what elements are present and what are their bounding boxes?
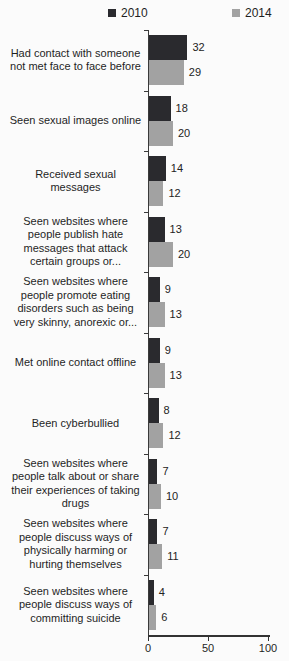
x-axis-tick xyxy=(268,636,269,641)
value-label-2014: 20 xyxy=(178,121,190,146)
value-label-2014: 6 xyxy=(161,605,167,630)
bar-group: 812 xyxy=(148,393,289,454)
bar-2014 xyxy=(149,484,161,509)
y-axis-tick xyxy=(144,575,149,576)
category-label: Received sexual messages xyxy=(0,168,148,195)
bar-2014 xyxy=(149,363,165,388)
category-label: Met online contact offline xyxy=(0,356,148,370)
legend-item-2014: 2014 xyxy=(232,6,272,20)
legend-swatch-2010-icon xyxy=(108,9,116,17)
bar-group: 913 xyxy=(148,272,289,333)
value-label-2010: 13 xyxy=(170,217,182,242)
bar-group: 46 xyxy=(148,575,289,636)
bar-row: Seen websites where people publish hate … xyxy=(0,212,289,273)
bar-2010 xyxy=(149,580,154,605)
bar-2010 xyxy=(149,96,171,121)
category-label: Seen websites where people promote eatin… xyxy=(0,275,148,329)
bar-row: Seen sexual images online1820 xyxy=(0,91,289,152)
legend-item-2010: 2010 xyxy=(108,6,148,20)
bar-2010 xyxy=(149,35,187,60)
bar-2014 xyxy=(149,423,163,448)
y-axis-tick xyxy=(144,514,149,515)
x-axis-tick-label: 0 xyxy=(136,642,160,654)
x-axis: 050100 xyxy=(148,635,289,661)
bar-group: 3229 xyxy=(148,30,289,91)
bar-2014 xyxy=(149,242,173,267)
value-label-2014: 11 xyxy=(167,544,178,569)
value-label-2014: 13 xyxy=(170,363,182,388)
bar-2014 xyxy=(149,60,184,85)
bar-row: Received sexual messages1412 xyxy=(0,151,289,212)
x-axis-tick xyxy=(148,636,149,641)
value-label-2014: 12 xyxy=(168,181,180,206)
value-label-2014: 12 xyxy=(168,423,180,448)
bar-row: Had contact with someone not met face to… xyxy=(0,30,289,91)
category-label: Seen websites where people publish hate … xyxy=(0,215,148,269)
category-label: Seen sexual images online xyxy=(0,114,148,128)
bar-2014 xyxy=(149,605,156,630)
value-label-2010: 7 xyxy=(162,459,168,484)
bar-row: Seen websites where people promote eatin… xyxy=(0,272,289,333)
y-axis-tick xyxy=(144,454,149,455)
value-label-2014: 10 xyxy=(166,484,178,509)
value-label-2014: 20 xyxy=(178,242,190,267)
category-label: Seen websites where people discuss ways … xyxy=(0,585,148,626)
legend-label-2010: 2010 xyxy=(121,6,148,20)
bar-2014 xyxy=(149,181,163,206)
bar-row: Seen websites where people discuss ways … xyxy=(0,514,289,575)
legend-swatch-2014-icon xyxy=(232,9,240,17)
bar-group: 1320 xyxy=(148,212,289,273)
bar-2010 xyxy=(149,519,157,544)
bar-2014 xyxy=(149,544,162,569)
y-axis-tick xyxy=(144,393,149,394)
bar-group: 1820 xyxy=(148,91,289,152)
bar-row: Seen websites where people discuss ways … xyxy=(0,575,289,636)
y-axis-tick xyxy=(144,151,149,152)
x-axis-line xyxy=(148,635,270,637)
y-axis-tick xyxy=(144,91,149,92)
value-label-2014: 13 xyxy=(170,302,182,327)
bar-2010 xyxy=(149,217,165,242)
legend-label-2014: 2014 xyxy=(245,6,272,20)
bar-row: Met online contact offline913 xyxy=(0,333,289,394)
value-label-2010: 14 xyxy=(171,156,183,181)
y-axis-tick xyxy=(144,333,149,334)
value-label-2010: 9 xyxy=(165,277,171,302)
bar-2010 xyxy=(149,398,159,423)
y-axis-tick xyxy=(144,30,149,31)
bar-2010 xyxy=(149,156,166,181)
value-label-2010: 18 xyxy=(176,96,188,121)
plot-rows: Had contact with someone not met face to… xyxy=(0,30,289,635)
value-label-2010: 7 xyxy=(162,519,168,544)
x-axis-tick-label: 100 xyxy=(256,642,280,654)
category-label: Seen websites where people discuss ways … xyxy=(0,517,148,571)
bar-row: Been cyberbullied812 xyxy=(0,393,289,454)
bar-group: 710 xyxy=(148,454,289,515)
bar-2014 xyxy=(149,121,173,146)
category-label: Seen websites where people talk about or… xyxy=(0,457,148,511)
x-axis-tick-label: 50 xyxy=(196,642,220,654)
bar-row: Seen websites where people talk about or… xyxy=(0,454,289,515)
value-label-2014: 29 xyxy=(189,60,201,85)
bar-2010 xyxy=(149,459,157,484)
bar-2010 xyxy=(149,338,160,363)
bar-group: 1412 xyxy=(148,151,289,212)
x-axis-tick xyxy=(208,636,209,641)
bar-group: 913 xyxy=(148,333,289,394)
value-label-2010: 9 xyxy=(165,338,171,363)
value-label-2010: 4 xyxy=(159,580,165,605)
value-label-2010: 8 xyxy=(164,398,170,423)
bar-2014 xyxy=(149,302,165,327)
category-label: Been cyberbullied xyxy=(0,417,148,431)
y-axis-tick xyxy=(144,272,149,273)
y-axis-tick xyxy=(144,212,149,213)
bar-chart-figure: 2010 2014 Had contact with someone not m… xyxy=(0,0,289,661)
bar-2010 xyxy=(149,277,160,302)
value-label-2010: 32 xyxy=(192,35,204,60)
category-label: Had contact with someone not met face to… xyxy=(0,47,148,74)
bar-group: 711 xyxy=(148,514,289,575)
